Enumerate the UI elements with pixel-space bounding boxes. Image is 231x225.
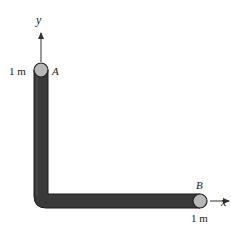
l-shaped-rod-diagram: y x A B 1 m 1 m xyxy=(0,0,231,225)
y-axis-label: y xyxy=(35,13,42,27)
point-a-coordinate: 1 m xyxy=(9,65,26,77)
l-rod xyxy=(34,70,200,208)
point-b-label: B xyxy=(196,179,203,191)
point-b-coordinate: 1 m xyxy=(191,212,208,224)
point-b-joint xyxy=(193,194,207,208)
point-a-joint xyxy=(34,63,48,77)
diagram-canvas: y x A B 1 m 1 m xyxy=(0,0,231,225)
x-axis-label: x xyxy=(220,195,227,209)
point-a-label: A xyxy=(51,65,59,77)
